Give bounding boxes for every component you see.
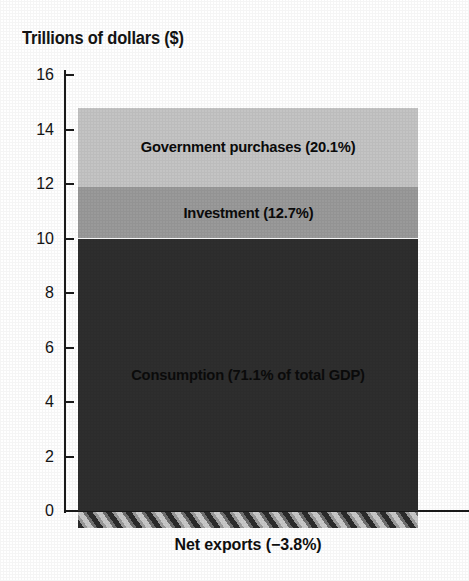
y-axis-tick-label-10: 10 <box>14 230 54 248</box>
y-axis-tick-label-2: 2 <box>14 448 54 466</box>
bar-segment-net-exports <box>78 512 418 528</box>
y-axis-tick-mark-8 <box>64 292 74 294</box>
y-axis-tick-mark-4 <box>64 401 74 403</box>
chart-figure: Trillions of dollars ($) 1614121086420 G… <box>0 0 469 581</box>
y-axis-tick-mark-6 <box>64 347 74 349</box>
bar-segment-label-net-exports: Net exports (−3.8%) <box>78 536 418 554</box>
y-axis-tick-mark-10 <box>64 238 74 240</box>
y-axis-tick-mark-12 <box>64 183 74 185</box>
bar-segment-label-government-purchases: Government purchases (20.1%) <box>141 138 356 156</box>
y-axis-tick-label-16: 16 <box>14 66 54 84</box>
plot-area: 1614121086420 Government purchases (20.1… <box>0 0 469 581</box>
y-axis-tick-label-12: 12 <box>14 175 54 193</box>
bar-segment-investment: Investment (12.7%) <box>78 187 418 239</box>
y-axis-tick-label-4: 4 <box>14 393 54 411</box>
y-axis-tick-label-6: 6 <box>14 339 54 357</box>
y-axis-tick-mark-16 <box>64 74 74 76</box>
bar-segment-consumption: Consumption (71.1% of total GDP) <box>78 239 418 512</box>
bar-segment-label-consumption: Consumption (71.1% of total GDP) <box>131 366 365 384</box>
y-axis-tick-mark-0 <box>64 510 74 512</box>
y-axis-tick-mark-2 <box>64 456 74 458</box>
bar-segment-label-investment: Investment (12.7%) <box>183 204 313 222</box>
y-axis-tick-label-8: 8 <box>14 284 54 302</box>
y-axis-tick-label-0: 0 <box>14 502 54 520</box>
bar-segment-government-purchases: Government purchases (20.1%) <box>78 108 418 187</box>
y-axis-tick-mark-14 <box>64 129 74 131</box>
y-axis-tick-label-14: 14 <box>14 121 54 139</box>
